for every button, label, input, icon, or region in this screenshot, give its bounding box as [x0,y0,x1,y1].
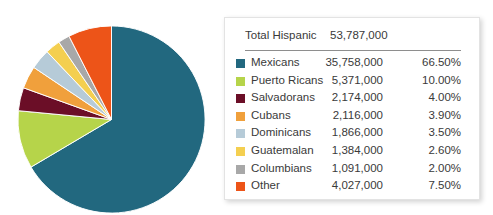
total-value: 53,787,000 [330,29,388,41]
legend-row-label: Columbians [251,162,312,174]
legend-row-value: 1,091,000 [310,162,383,174]
legend-row-percent: 3.50% [397,126,461,138]
legend-row-label: Mexicans [251,56,300,68]
legend-swatch-icon [236,147,245,156]
legend-row: Salvadorans2,174,0004.00% [225,90,479,108]
legend-rows: Mexicans35,758,00066.50%Puerto Ricans5,3… [225,55,479,196]
legend-row-percent: 4.00% [397,91,461,103]
legend-swatch-icon [236,112,245,121]
legend-row-label: Cubans [251,109,291,121]
legend-row-label: Guatemalan [251,144,314,156]
total-divider [245,50,461,51]
legend-row-percent: 2.60% [397,144,461,156]
legend-row: Other4,027,0007.50% [225,178,479,196]
legend-row: Cubans2,116,0003.90% [225,108,479,126]
pie-chart-figure: Total Hispanic 53,787,000 Mexicans35,758… [0,0,493,215]
legend-row-percent: 2.00% [397,162,461,174]
legend-swatch-icon [236,59,245,68]
pie-chart [17,25,206,214]
legend-row-value: 4,027,000 [310,179,383,191]
legend-inner: Total Hispanic 53,787,000 Mexicans35,758… [225,18,479,199]
legend-row-value: 1,866,000 [310,126,383,138]
legend-panel: Total Hispanic 53,787,000 Mexicans35,758… [224,17,480,200]
legend-swatch-icon [236,94,245,103]
legend-row-percent: 7.50% [397,179,461,191]
total-label: Total Hispanic [245,29,317,41]
legend-row-percent: 3.90% [397,109,461,121]
legend-row: Mexicans35,758,00066.50% [225,55,479,73]
total-row: Total Hispanic 53,787,000 [245,29,461,49]
legend-row-value: 2,116,000 [310,109,383,121]
legend-row-value: 35,758,000 [310,56,383,68]
legend-swatch-icon [236,77,245,86]
legend-swatch-icon [236,129,245,138]
legend-row: Columbians1,091,0002.00% [225,161,479,179]
legend-row: Dominicans1,866,0003.50% [225,125,479,143]
legend-row: Puerto Ricans5,371,00010.00% [225,73,479,91]
legend-row-value: 5,371,000 [310,74,383,86]
pie-slice-group [18,26,205,213]
legend-row: Guatemalan1,384,0002.60% [225,143,479,161]
legend-swatch-icon [236,182,245,191]
legend-row-value: 2,174,000 [310,91,383,103]
legend-row-label: Salvadorans [251,91,315,103]
legend-row-value: 1,384,000 [310,144,383,156]
pie-chart-svg [17,25,206,214]
legend-swatch-icon [236,165,245,174]
legend-row-label: Dominicans [251,126,311,138]
legend-row-label: Other [251,179,280,191]
legend-row-percent: 10.00% [397,74,461,86]
legend-row-percent: 66.50% [397,56,461,68]
